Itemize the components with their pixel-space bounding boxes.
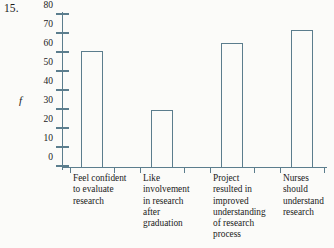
category-label-line: in research [143,196,209,207]
y-axis-tick-inner [63,51,69,52]
bar [291,30,313,167]
category-label-line: understand [283,196,334,207]
plot-area: 01020304050607080 [62,14,327,168]
category-label-line: research [283,207,334,218]
category-label: Likeinvolvementin researchaftergraduatio… [143,173,209,229]
category-label-line: after [143,207,209,218]
y-axis-tick-inner [63,32,69,33]
y-axis-tick [56,70,62,71]
bar [81,51,103,167]
category-label: Projectresulted inimprovedunderstandingo… [213,173,279,241]
y-axis-tick-inner [63,146,69,147]
category-label-line: resulted in [213,184,279,195]
y-axis-tick [56,51,62,52]
y-axis-tick-label: 50 [44,58,54,68]
bar [151,110,173,167]
category-label-line: graduation [143,218,209,229]
y-axis-tick-label: 0 [48,153,53,163]
x-axis-separator [210,168,211,173]
problem-number: 15. [4,2,19,14]
category-label-line: of research [213,218,279,229]
category-label-line: Feel confident [73,173,139,184]
y-axis-tick-label: 30 [44,96,54,106]
y-axis-tick [56,13,62,14]
category-label-line: to evaluate [73,184,139,195]
y-axis-tick-label: 10 [44,134,54,144]
y-axis-tick-label: 60 [44,39,54,49]
category-label-line: Nurses [283,173,334,184]
y-axis-tick [56,32,62,33]
category-label-line: research [73,196,139,207]
y-axis-tick [56,146,62,147]
y-axis-tick-label: 20 [44,115,54,125]
x-axis-line [62,167,327,168]
y-axis-tick-inner [63,70,69,71]
y-axis-tick-label: 40 [44,77,54,87]
y-axis-tick-label: 80 [44,1,54,11]
y-axis-tick-inner [63,108,69,109]
bar [221,43,243,167]
y-axis-tick-label: 70 [44,20,54,30]
x-axis-separator [70,168,71,173]
y-axis-tick-inner [63,127,69,128]
y-axis-title: f [19,94,22,106]
category-label-line: should [283,184,334,195]
category-label-line: involvement [143,184,209,195]
x-axis-separator [140,168,141,173]
category-label: Feel confidentto evaluateresearch [73,173,139,207]
category-label-line: Project [213,173,279,184]
y-axis-tick-inner [63,13,69,14]
figure: 15. f 01020304050607080 Feel confidentto… [0,0,334,248]
category-label-line: understanding [213,207,279,218]
y-axis-tick [56,89,62,90]
y-axis-tick-inner [63,165,69,166]
y-axis-tick [56,108,62,109]
category-label-line: Like [143,173,209,184]
category-label-line: improved [213,196,279,207]
category-label-line: process [213,229,279,240]
y-axis-tick-inner [63,89,69,90]
y-axis-tick [56,127,62,128]
category-label: Nursesshouldunderstandresearch [283,173,334,218]
y-axis-tick [56,165,62,166]
x-axis-separator [280,168,281,173]
